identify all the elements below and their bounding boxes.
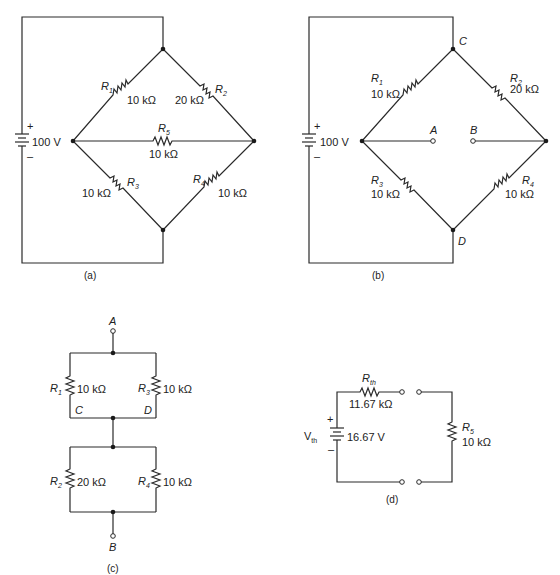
source-voltage: 100 V <box>32 136 61 148</box>
node-a-label: A <box>108 315 116 327</box>
r2-value: 20 kΩ <box>510 83 539 95</box>
r1-value: 10 kΩ <box>371 88 400 100</box>
node-dot <box>161 47 166 52</box>
r5-value: 10 kΩ <box>462 436 491 448</box>
wire <box>22 141 163 263</box>
circuit-figure: + – 100 V R1 10 kΩ R2 20 kΩ R5 10 kΩ R3 … <box>0 0 560 575</box>
node-c-dot <box>451 47 456 52</box>
r5-label: R5 <box>462 421 474 435</box>
source-minus: – <box>328 443 335 455</box>
node-dot <box>111 445 116 450</box>
node-dot <box>111 510 116 515</box>
source-voltage: 100 V <box>320 136 349 148</box>
node-c-label: C <box>459 35 467 47</box>
caption-a: (a) <box>84 270 96 281</box>
r2-value: 20 kΩ <box>77 476 106 488</box>
caption-d: (d) <box>386 494 398 505</box>
r1-label: R1 <box>371 72 383 86</box>
resistor-r5-icon <box>73 137 254 145</box>
r1-value: 10 kΩ <box>127 94 156 106</box>
resistor-r3-icon <box>152 353 160 418</box>
node-dot <box>161 228 166 233</box>
terminal <box>400 390 405 395</box>
source-plus: + <box>327 413 333 425</box>
caption-c: (c) <box>107 563 119 574</box>
panel-d: + – Vth 16.67 V Rth 11.67 kΩ R5 10 kΩ (d… <box>304 372 491 505</box>
terminal-b-label: B <box>470 124 477 136</box>
resistor-r2-icon <box>66 447 74 512</box>
r3-label: R3 <box>127 176 139 190</box>
panel-a: + – 100 V R1 10 kΩ R2 20 kΩ R5 10 kΩ R3 … <box>14 17 256 281</box>
terminal-b <box>471 139 476 144</box>
resistor-r4-icon <box>152 447 160 512</box>
resistor-r2-icon <box>453 49 546 141</box>
node-dot <box>111 351 116 356</box>
terminal <box>417 390 422 395</box>
r2-label: R2 <box>50 475 62 489</box>
r4-value: 10 kΩ <box>163 476 192 488</box>
r1-value: 10 kΩ <box>77 383 106 395</box>
node-d-label: D <box>458 235 466 247</box>
node-dot <box>111 416 116 421</box>
vth-value: 16.67 V <box>347 431 386 443</box>
panel-c: A B C D R1 10 kΩ R3 10 kΩ R2 20 kΩ R4 10… <box>50 315 192 574</box>
r2-value: 20 kΩ <box>175 94 204 106</box>
r2-label: R2 <box>215 83 227 97</box>
terminal-b <box>111 534 116 539</box>
terminal <box>400 480 405 485</box>
r3-value: 10 kΩ <box>371 188 400 200</box>
r3-value: 10 kΩ <box>82 187 111 199</box>
wire <box>22 17 163 141</box>
r4-label: R4 <box>193 173 205 187</box>
rth-label: Rth <box>362 372 376 386</box>
r4-value: 10 kΩ <box>218 187 247 199</box>
r4-label: R4 <box>138 475 150 489</box>
source-plus: + <box>27 120 33 132</box>
resistor-r1-icon <box>66 353 74 418</box>
panel-b: + – 100 V C D A B R1 10 kΩ R2 20 kΩ R3 1… <box>301 17 548 281</box>
node-dot <box>71 139 76 144</box>
r5-value: 10 kΩ <box>149 148 178 160</box>
terminal-a <box>111 329 116 334</box>
battery-icon <box>301 131 317 151</box>
r1-label: R1 <box>50 382 62 396</box>
wire <box>337 446 400 482</box>
terminal <box>417 480 422 485</box>
node-d-label: D <box>144 404 152 416</box>
node-dot <box>544 139 549 144</box>
node-dot <box>252 139 257 144</box>
caption-b: (b) <box>372 270 384 281</box>
resistor-r5-icon <box>421 392 456 482</box>
node-dot <box>360 139 365 144</box>
battery-icon <box>14 131 30 151</box>
node-c-label: C <box>75 404 83 416</box>
node-b-label: B <box>109 541 116 553</box>
vth-label: Vth <box>304 430 317 444</box>
rth-value: 11.67 kΩ <box>349 398 393 410</box>
source-minus: – <box>27 150 34 162</box>
r3-value: 10 kΩ <box>163 383 192 395</box>
terminal-a-label: A <box>429 124 437 136</box>
source-plus: + <box>314 120 320 132</box>
r3-label: R3 <box>371 174 383 188</box>
r4-label: R4 <box>522 174 534 188</box>
r5-label: R5 <box>158 122 170 136</box>
source-minus: – <box>314 150 321 162</box>
terminal-a <box>431 139 436 144</box>
r4-value: 10 kΩ <box>505 188 534 200</box>
r1-label: R1 <box>101 80 113 94</box>
r3-label: R3 <box>138 382 150 396</box>
node-d-dot <box>451 228 456 233</box>
